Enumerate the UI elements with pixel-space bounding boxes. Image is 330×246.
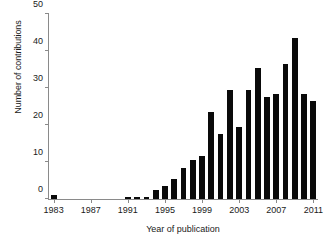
y-axis-tick	[45, 198, 49, 199]
x-axis-tick	[165, 199, 166, 203]
y-axis-tick-label: 50	[33, 0, 43, 9]
bar	[273, 94, 279, 199]
bar	[301, 94, 307, 199]
bar	[125, 197, 131, 199]
bar	[283, 64, 289, 199]
y-axis-tick	[45, 124, 49, 125]
y-axis-tick	[45, 161, 49, 162]
bar	[199, 156, 205, 199]
x-axis-tick-label: 2007	[266, 205, 286, 215]
y-axis-tick-label: 10	[33, 147, 43, 157]
x-axis-tick-label: 1999	[192, 205, 212, 215]
y-axis-tick-label: 0	[38, 184, 43, 194]
x-axis-tick	[128, 199, 129, 203]
bar	[264, 97, 270, 199]
bar	[292, 38, 298, 199]
bar	[153, 190, 159, 199]
y-axis-tick-label: 30	[33, 73, 43, 83]
bar	[134, 197, 140, 199]
bar	[227, 90, 233, 199]
x-axis-tick	[91, 199, 92, 203]
y-axis-tick-label: 20	[33, 110, 43, 120]
x-axis-tick	[313, 199, 314, 203]
x-axis-title: Year of publication	[48, 224, 318, 234]
plot-area: 0102030405019831987199119951999200320072…	[48, 14, 318, 200]
bar	[310, 101, 316, 199]
y-axis-tick	[45, 50, 49, 51]
x-axis-tick-label: 1991	[118, 205, 138, 215]
bar	[144, 197, 150, 199]
bar	[246, 90, 252, 199]
bar	[236, 127, 242, 199]
bar	[218, 134, 224, 199]
y-axis-tick	[45, 87, 49, 88]
x-axis-tick	[202, 199, 203, 203]
bar	[255, 68, 261, 199]
x-axis-tick-label: 2011	[304, 205, 323, 215]
x-axis-tick-label: 1983	[44, 205, 64, 215]
y-axis-tick-label: 40	[33, 36, 43, 46]
x-axis-tick	[239, 199, 240, 203]
x-axis-tick	[54, 199, 55, 203]
x-axis-tick-label: 2003	[229, 205, 249, 215]
x-axis-tick-label: 1995	[155, 205, 175, 215]
bar	[208, 112, 214, 199]
x-axis-tick	[276, 199, 277, 203]
y-axis-tick	[45, 13, 49, 14]
bar	[171, 179, 177, 199]
bar	[162, 186, 168, 199]
bar	[181, 168, 187, 199]
bar	[190, 160, 196, 199]
bar-chart-figure: Number of contributions 0102030405019831…	[0, 0, 330, 246]
x-axis-tick-label: 1987	[81, 205, 101, 215]
y-axis-title: Number of contributions	[13, 0, 23, 147]
bar	[51, 195, 57, 199]
